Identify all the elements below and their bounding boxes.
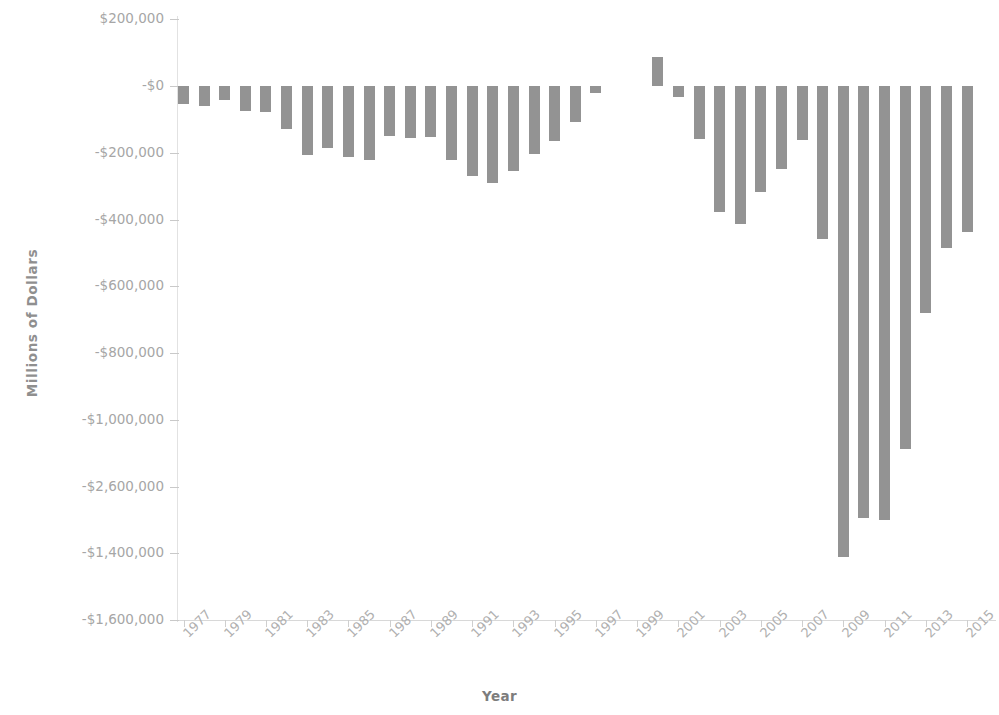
bar [343, 86, 354, 157]
bar [508, 86, 519, 171]
bar [467, 86, 478, 176]
bar [240, 86, 251, 111]
x-axis-title: Year [0, 688, 999, 704]
bar-chart: Millions of Dollars Year $200,000-$0-$20… [0, 0, 999, 715]
bar [714, 86, 725, 212]
bar [735, 86, 746, 224]
bar [920, 86, 931, 313]
bar [364, 86, 375, 160]
y-tick-label: -$200,000 [12, 144, 164, 160]
bar [487, 86, 498, 183]
bar [941, 86, 952, 248]
bar [384, 86, 395, 136]
plot-area [178, 18, 996, 620]
bar [178, 86, 189, 104]
bar [302, 86, 313, 155]
bar [838, 86, 849, 557]
y-tick-label: -$600,000 [12, 277, 164, 293]
bar [219, 86, 230, 100]
bar [817, 86, 828, 239]
bar [962, 86, 973, 232]
y-axis-title: Millions of Dollars [24, 213, 40, 433]
bar [281, 86, 292, 129]
bar [425, 86, 436, 137]
bar [673, 86, 684, 97]
y-tick-label: -$1,400,000 [12, 544, 164, 560]
bar [900, 86, 911, 449]
y-tick-label: $200,000 [12, 10, 164, 26]
bar [590, 86, 601, 93]
bar [405, 86, 416, 138]
y-tick-label: -$800,000 [12, 344, 164, 360]
y-tick-label: -$1,600,000 [12, 611, 164, 627]
bar [652, 57, 663, 86]
bar [858, 86, 869, 518]
bar [570, 86, 581, 122]
bar [797, 86, 808, 140]
bar [260, 86, 271, 112]
x-axis-line [170, 620, 996, 621]
y-tick-mark [170, 620, 179, 621]
bar [446, 86, 457, 160]
bar [755, 86, 766, 192]
bar [776, 86, 787, 169]
y-tick-label: -$0 [12, 77, 164, 93]
bar [529, 86, 540, 154]
y-tick-label: -$2,600,000 [12, 478, 164, 494]
bar [879, 86, 890, 520]
bar [199, 86, 210, 106]
bar [322, 86, 333, 148]
y-tick-label: -$400,000 [12, 211, 164, 227]
bar [549, 86, 560, 141]
bar [694, 86, 705, 139]
y-tick-label: -$1,000,000 [12, 411, 164, 427]
